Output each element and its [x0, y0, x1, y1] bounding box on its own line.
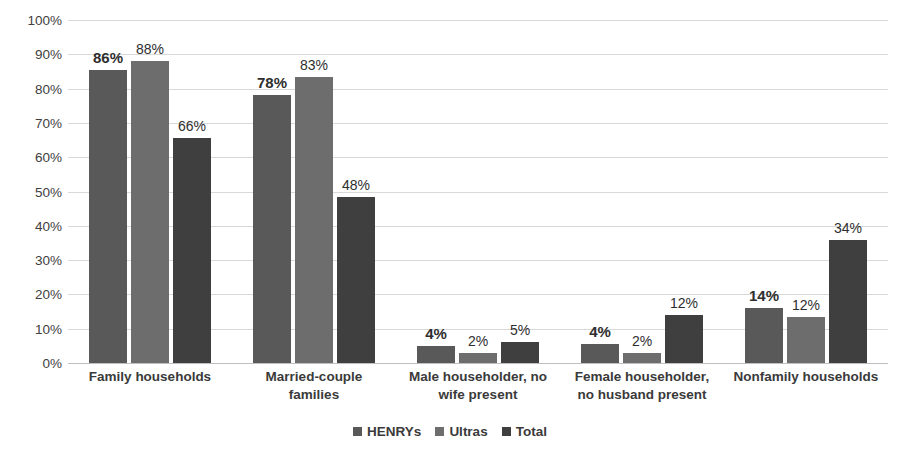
bar-value-label: 48%: [342, 178, 370, 192]
bar-henrys[interactable]: [89, 70, 127, 363]
x-axis-label: Married-couplefamilies: [232, 368, 396, 404]
bar-total[interactable]: [829, 240, 867, 363]
bar-henrys[interactable]: [581, 344, 619, 363]
x-axis-category-labels: Family householdsMarried-couplefamiliesM…: [68, 368, 888, 416]
bar-value-label: 34%: [834, 221, 862, 235]
legend-item-total[interactable]: Total: [502, 424, 547, 439]
bar-value-label: 14%: [749, 288, 779, 303]
x-axis-label: Male householder, nowife present: [396, 368, 560, 404]
bar-group: 86%88%66%: [68, 20, 232, 363]
y-axis-tick-label: 60%: [4, 150, 62, 165]
bar-value-label: 5%: [510, 323, 530, 337]
legend-swatch-icon: [353, 427, 362, 436]
legend-item-ultras[interactable]: Ultras: [435, 424, 487, 439]
legend-label: Total: [516, 424, 547, 439]
bar-total[interactable]: [337, 197, 375, 363]
legend-swatch-icon: [435, 427, 444, 436]
bar-group: 78%83%48%: [232, 20, 396, 363]
x-axis-label-line: Family households: [68, 368, 232, 386]
bar-total[interactable]: [173, 138, 211, 363]
x-axis-label: Family households: [68, 368, 232, 386]
y-axis-tick-label: 70%: [4, 115, 62, 130]
y-axis-tick-label: 40%: [4, 218, 62, 233]
bar-total[interactable]: [665, 315, 703, 363]
bar-value-label: 2%: [632, 334, 652, 348]
bar-value-label: 12%: [792, 298, 820, 312]
legend-item-henrys[interactable]: HENRYs: [353, 424, 421, 439]
bar-value-label: 78%: [257, 75, 287, 90]
y-axis: 100%90%80%70%60%50%40%30%20%10%0%: [0, 20, 62, 363]
bar-total[interactable]: [501, 342, 539, 363]
y-axis-tick-label: 10%: [4, 321, 62, 336]
bar-henrys[interactable]: [745, 308, 783, 363]
bar-ultras[interactable]: [459, 353, 497, 363]
x-axis-label-line: families: [232, 386, 396, 404]
y-axis-tick-label: 80%: [4, 81, 62, 96]
legend-swatch-icon: [502, 427, 511, 436]
y-axis-tick-label: 0%: [4, 356, 62, 371]
bar-henrys[interactable]: [417, 346, 455, 363]
x-axis-label-line: wife present: [396, 386, 560, 404]
gridline: [68, 363, 888, 364]
bar-group: 4%2%12%: [560, 20, 724, 363]
bar-value-label: 4%: [425, 326, 447, 341]
bar-value-label: 4%: [589, 324, 611, 339]
x-axis-label: Nonfamily households: [724, 368, 888, 386]
bar-chart: 100%90%80%70%60%50%40%30%20%10%0% 86%88%…: [0, 0, 900, 450]
bar-group: 14%12%34%: [724, 20, 888, 363]
legend-label: HENRYs: [367, 424, 421, 439]
y-axis-tick-label: 20%: [4, 287, 62, 302]
legend-label: Ultras: [449, 424, 487, 439]
x-axis-label-line: Married-couple: [232, 368, 396, 386]
bar-value-label: 12%: [670, 296, 698, 310]
chart-legend: HENRYsUltrasTotal: [0, 424, 900, 439]
y-axis-tick-label: 90%: [4, 47, 62, 62]
bar-value-label: 88%: [136, 42, 164, 56]
bar-ultras[interactable]: [623, 353, 661, 363]
x-axis-label: Female householder,no husband present: [560, 368, 724, 404]
bar-value-label: 86%: [93, 50, 123, 65]
x-axis-label-line: no husband present: [560, 386, 724, 404]
plot-area: 86%88%66%78%83%48%4%2%5%4%2%12%14%12%34%: [68, 20, 888, 363]
bar-ultras[interactable]: [131, 61, 169, 363]
x-axis-label-line: Male householder, no: [396, 368, 560, 386]
bar-henrys[interactable]: [253, 95, 291, 363]
bar-group: 4%2%5%: [396, 20, 560, 363]
bar-value-label: 2%: [468, 334, 488, 348]
y-axis-tick-label: 30%: [4, 253, 62, 268]
y-axis-tick-label: 50%: [4, 184, 62, 199]
bar-value-label: 66%: [178, 119, 206, 133]
bar-ultras[interactable]: [787, 317, 825, 363]
x-axis-label-line: Nonfamily households: [724, 368, 888, 386]
bar-ultras[interactable]: [295, 77, 333, 363]
bar-value-label: 83%: [300, 58, 328, 72]
x-axis-label-line: Female householder,: [560, 368, 724, 386]
y-axis-tick-label: 100%: [4, 13, 62, 28]
